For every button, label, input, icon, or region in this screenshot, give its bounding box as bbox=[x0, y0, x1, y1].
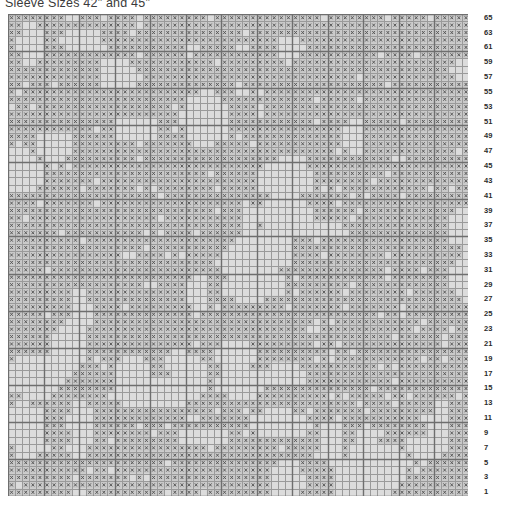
row-label: 63 bbox=[484, 29, 493, 37]
row-label: 33 bbox=[484, 251, 493, 259]
row-label: 15 bbox=[484, 384, 493, 392]
row-label: 1 bbox=[484, 488, 488, 496]
row-label: 65 bbox=[484, 14, 493, 22]
row-label: 41 bbox=[484, 192, 493, 200]
row-label: 23 bbox=[484, 325, 493, 333]
row-label: 13 bbox=[484, 399, 493, 407]
row-label: 11 bbox=[484, 414, 492, 422]
row-label: 25 bbox=[484, 310, 493, 318]
row-label: 5 bbox=[484, 459, 488, 467]
row-label: 55 bbox=[484, 88, 493, 96]
row-label: 35 bbox=[484, 236, 493, 244]
row-label: 43 bbox=[484, 177, 493, 185]
row-label: 47 bbox=[484, 147, 493, 155]
page-title: Sleeve Sizes 42" and 45" bbox=[5, 0, 150, 10]
pattern-grid[interactable] bbox=[8, 14, 468, 496]
row-label: 39 bbox=[484, 207, 493, 215]
row-label: 49 bbox=[484, 132, 493, 140]
row-label: 7 bbox=[484, 444, 488, 452]
row-label: 17 bbox=[484, 370, 493, 378]
pattern-chart: Sleeve Sizes 42" and 45" 656361595755535… bbox=[0, 0, 508, 521]
row-label: 9 bbox=[484, 429, 488, 437]
row-label: 45 bbox=[484, 162, 493, 170]
row-label: 51 bbox=[484, 118, 493, 126]
row-label: 59 bbox=[484, 58, 493, 66]
row-label: 31 bbox=[484, 266, 493, 274]
row-label: 53 bbox=[484, 103, 493, 111]
row-label: 29 bbox=[484, 281, 493, 289]
row-label: 19 bbox=[484, 355, 493, 363]
row-label: 61 bbox=[484, 43, 493, 51]
row-label: 27 bbox=[484, 295, 493, 303]
row-label: 37 bbox=[484, 221, 493, 229]
row-label: 57 bbox=[484, 73, 493, 81]
row-label-axis: 6563615957555351494745434139373533312927… bbox=[470, 14, 506, 495]
row-label: 21 bbox=[484, 340, 493, 348]
row-label: 3 bbox=[484, 473, 488, 481]
